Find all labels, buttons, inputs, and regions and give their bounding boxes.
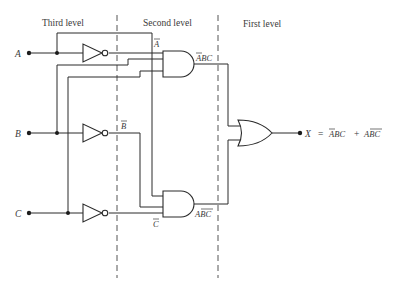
label-second-level: Second level: [143, 18, 192, 28]
label-third-level: Third level: [42, 18, 84, 28]
input-label-c: C: [15, 209, 22, 219]
svg-text:C: C: [153, 219, 159, 229]
junction-b: [55, 131, 59, 135]
svg-text:X: X: [304, 129, 312, 139]
wires-c: [29, 71, 163, 213]
svg-text:ABC: ABC: [194, 209, 211, 219]
junction-a: [55, 51, 59, 55]
signal-label-and-top: ABC: [195, 53, 212, 63]
wire-and-top-to-or: [194, 64, 240, 126]
wires-a: [29, 33, 163, 196]
output-terminal-x: [298, 131, 302, 135]
logic-circuit-diagram: Third level Second level First level A B…: [0, 0, 394, 295]
svg-text:B: B: [121, 121, 126, 131]
junction-c: [66, 211, 70, 215]
svg-text:+: +: [354, 129, 359, 139]
svg-text:A: A: [153, 39, 160, 49]
signal-label-and-bottom: ABC: [194, 209, 213, 219]
input-label-b: B: [15, 129, 21, 139]
inverter-b: [83, 124, 108, 142]
or-gate: [238, 120, 272, 146]
svg-text:=: =: [318, 129, 323, 139]
signal-label-b-not: B: [121, 121, 127, 131]
inverter-a: [83, 44, 108, 62]
signal-label-a-not: A: [153, 39, 160, 49]
output-expression: X = ABC + ABC: [304, 129, 382, 139]
label-first-level: First level: [243, 19, 282, 29]
inverter-c: [83, 204, 108, 222]
and-gate-bottom: [163, 191, 194, 217]
svg-text:ABC: ABC: [195, 53, 212, 63]
signal-label-c-not: C: [153, 219, 159, 229]
and-gate-top: [163, 51, 194, 77]
svg-text:ABC: ABC: [363, 129, 380, 139]
wire-and-bottom-to-or: [194, 140, 240, 204]
svg-text:ABC: ABC: [328, 129, 345, 139]
input-label-a: A: [14, 49, 21, 59]
